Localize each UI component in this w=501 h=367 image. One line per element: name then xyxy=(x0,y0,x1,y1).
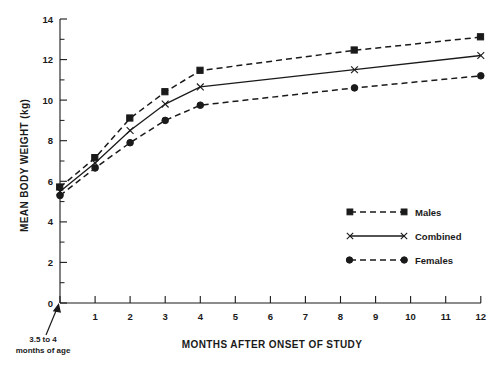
x-tick-label: 3 xyxy=(163,311,168,322)
data-point-combined xyxy=(162,101,169,108)
series-combined xyxy=(57,52,485,195)
data-point-females xyxy=(92,165,99,172)
x-tick-label: 4 xyxy=(198,311,204,322)
x-tick-label: 6 xyxy=(268,311,273,322)
data-point-females xyxy=(478,73,485,80)
chart-figure: 14 12 10 8 6 4 2 0 1 2 xyxy=(0,0,501,367)
legend-item-males: Males xyxy=(347,207,441,218)
data-point-males xyxy=(197,67,203,73)
series-males-line xyxy=(60,37,481,187)
legend-marker-square-icon xyxy=(401,209,407,215)
x-axis-title: MONTHS AFTER ONSET OF STUDY xyxy=(182,339,362,350)
y-tick-label: 8 xyxy=(48,135,53,146)
annotation-line-2: months of age xyxy=(16,346,71,355)
x-tick-label: 12 xyxy=(476,311,487,322)
x-tick-label: 10 xyxy=(405,311,416,322)
y-tick-label: 6 xyxy=(48,176,53,187)
data-point-males xyxy=(351,47,357,53)
data-point-females xyxy=(351,85,358,92)
x-tick-labels: 1 2 3 4 5 6 7 8 9 10 11 12 xyxy=(92,311,486,322)
annotation-line-1: 3.5 to 4 xyxy=(29,335,57,344)
x-tick-label: 9 xyxy=(373,311,378,322)
legend-marker-circle-icon xyxy=(346,257,352,263)
data-point-females xyxy=(162,117,169,124)
x-tick-label: 5 xyxy=(233,311,239,322)
series-females xyxy=(57,73,484,199)
data-point-females xyxy=(127,139,134,146)
y-tick-label: 12 xyxy=(42,54,53,65)
series-females-line xyxy=(60,76,481,196)
series-combined-line xyxy=(60,56,481,192)
y-tick-label: 10 xyxy=(42,95,53,106)
legend-label-males: Males xyxy=(415,207,441,218)
legend-marker-square-icon xyxy=(347,209,353,215)
legend-item-females: Females xyxy=(346,255,453,266)
data-point-males xyxy=(477,34,483,40)
legend-item-combined: Combined xyxy=(347,231,462,242)
y-tick-label: 14 xyxy=(42,14,53,25)
legend-label-females: Females xyxy=(415,255,453,266)
data-point-females xyxy=(197,102,204,109)
data-point-males xyxy=(162,89,168,95)
data-point-combined xyxy=(127,127,134,134)
origin-annotation: 3.5 to 4 months of age xyxy=(16,305,71,356)
x-tick-label: 7 xyxy=(303,311,308,322)
y-tick-label: 4 xyxy=(48,216,54,227)
y-tick-label: 2 xyxy=(48,257,53,268)
x-tick-label: 2 xyxy=(127,311,132,322)
chart-legend: Males Combined Females xyxy=(346,207,461,266)
y-tick-labels: 14 12 10 8 6 4 2 0 xyxy=(42,14,53,309)
data-point-males xyxy=(127,115,133,121)
y-axis-ticks xyxy=(60,19,67,303)
x-tick-label: 8 xyxy=(338,311,343,322)
x-tick-label: 1 xyxy=(92,311,98,322)
x-axis-ticks xyxy=(60,296,481,303)
legend-label-combined: Combined xyxy=(415,231,462,242)
x-tick-label: 11 xyxy=(441,311,452,322)
series-males xyxy=(57,34,484,190)
data-point-females xyxy=(57,192,64,199)
chart-svg: 14 12 10 8 6 4 2 0 1 2 xyxy=(0,0,501,367)
legend-marker-circle-icon xyxy=(401,257,407,263)
y-axis-title: MEAN BODY WEIGHT (kg) xyxy=(19,99,30,232)
y-tick-label: 0 xyxy=(48,298,53,309)
